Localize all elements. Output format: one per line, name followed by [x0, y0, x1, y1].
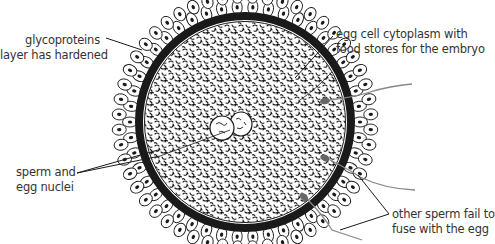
label-line: sperm and: [16, 165, 76, 180]
label-line: glycoproteins: [0, 33, 100, 48]
label-line: egg nuclei: [16, 180, 76, 195]
label-line: food stores for the embryo: [336, 42, 485, 57]
label-cytoplasm: egg cell cytoplasm with food stores for …: [336, 27, 485, 57]
label-glycoprotein: glycoproteins layer has hardened: [0, 33, 100, 63]
label-other-sperm: other sperm fail to fuse with the egg: [392, 207, 495, 237]
label-line: layer has hardened: [0, 48, 100, 63]
label-line: egg cell cytoplasm with: [336, 27, 485, 42]
label-nuclei: sperm and egg nuclei: [16, 165, 76, 195]
label-line: fuse with the egg: [392, 222, 495, 237]
leader-glycoprotein: [106, 38, 142, 50]
label-line: other sperm fail to: [392, 207, 495, 222]
